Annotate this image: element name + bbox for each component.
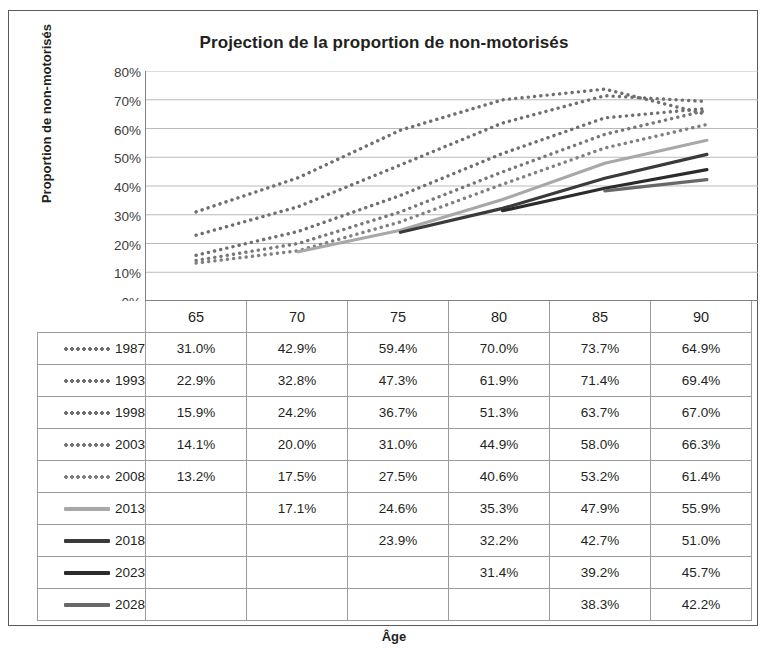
table-header-age-65: 65 — [146, 301, 247, 333]
legend-cell-1993[interactable]: 1993 — [38, 365, 146, 397]
table-cell — [449, 589, 550, 621]
table-header-age-90: 90 — [651, 301, 752, 333]
legend-swatch-solid-icon — [64, 539, 110, 543]
table-cell: 47.3% — [348, 365, 449, 397]
table-cell: 23.9% — [348, 525, 449, 557]
table-cell: 32.2% — [449, 525, 550, 557]
table-cell — [146, 493, 247, 525]
table-cell: 40.6% — [449, 461, 550, 493]
table-header-age-70: 70 — [247, 301, 348, 333]
legend-label-2028: 2028 — [115, 597, 145, 612]
legend-swatch-dotted-icon — [64, 475, 110, 479]
legend-cell-2028[interactable]: 2028 — [38, 589, 146, 621]
table-cell — [247, 525, 348, 557]
table-cell: 67.0% — [651, 397, 752, 429]
table-cell: 32.8% — [247, 365, 348, 397]
legend-swatch-solid-icon — [64, 507, 110, 511]
legend-swatch-dotted-icon — [64, 347, 110, 351]
table-cell: 51.0% — [651, 525, 752, 557]
legend-cell-2003[interactable]: 2003 — [38, 429, 146, 461]
y-axis-title: Proportion de non-motorisés — [39, 0, 54, 239]
legend-swatch-dotted-icon — [64, 443, 110, 447]
legend-cell-1998[interactable]: 1998 — [38, 397, 146, 429]
legend-swatch-dotted-icon — [64, 379, 110, 383]
table-cell: 27.5% — [348, 461, 449, 493]
table-cell: 69.4% — [651, 365, 752, 397]
table-cell: 58.0% — [550, 429, 651, 461]
table-cell: 70.0% — [449, 333, 550, 365]
legend-label-2023: 2023 — [115, 565, 145, 580]
table-row: 201317.1%24.6%35.3%47.9%55.9% — [38, 493, 752, 525]
table-cell: 47.9% — [550, 493, 651, 525]
table-row: 200813.2%17.5%27.5%40.6%53.2%61.4% — [38, 461, 752, 493]
table-header-age-80: 80 — [449, 301, 550, 333]
table-cell: 17.5% — [247, 461, 348, 493]
legend-label-2018: 2018 — [115, 533, 145, 548]
table-row: 201823.9%32.2%42.7%51.0% — [38, 525, 752, 557]
table-cell: 61.4% — [651, 461, 752, 493]
table-corner-cell — [38, 301, 146, 333]
table-cell: 38.3% — [550, 589, 651, 621]
y-axis-tick-40: 40% — [89, 181, 141, 195]
table-cell — [146, 525, 247, 557]
legend-label-2008: 2008 — [115, 469, 145, 484]
table-cell: 31.0% — [146, 333, 247, 365]
legend-label-1987: 1987 — [115, 341, 145, 356]
table-cell: 53.2% — [550, 461, 651, 493]
table-cell: 20.0% — [247, 429, 348, 461]
table-cell: 17.1% — [247, 493, 348, 525]
table-cell — [348, 589, 449, 621]
table-cell: 31.4% — [449, 557, 550, 589]
legend-label-2003: 2003 — [115, 437, 145, 452]
data-table: 657075808590198731.0%42.9%59.4%70.0%73.7… — [37, 301, 752, 621]
table-cell: 61.9% — [449, 365, 550, 397]
table-cell: 24.2% — [247, 397, 348, 429]
table-cell: 66.3% — [651, 429, 752, 461]
table-cell: 59.4% — [348, 333, 449, 365]
y-axis-tick-70: 70% — [89, 95, 141, 109]
table-cell: 42.2% — [651, 589, 752, 621]
table-cell — [247, 589, 348, 621]
legend-swatch-solid-icon — [64, 571, 110, 575]
table-cell — [247, 557, 348, 589]
y-axis-tick-80: 80% — [89, 66, 141, 80]
table-cell: 42.7% — [550, 525, 651, 557]
table-cell: 63.7% — [550, 397, 651, 429]
x-axis-title: Âge — [37, 629, 751, 644]
table-cell: 35.3% — [449, 493, 550, 525]
legend-cell-2023[interactable]: 2023 — [38, 557, 146, 589]
table-cell: 15.9% — [146, 397, 247, 429]
legend-label-2013: 2013 — [115, 501, 145, 516]
table-cell: 24.6% — [348, 493, 449, 525]
table-cell: 71.4% — [550, 365, 651, 397]
legend-label-1998: 1998 — [115, 405, 145, 420]
y-axis-tick-50: 50% — [89, 152, 141, 166]
legend-cell-2018[interactable]: 2018 — [38, 525, 146, 557]
y-axis-tick-labels: 80%70%60%50%40%30%20%10%0% — [89, 63, 141, 309]
table-cell: 51.3% — [449, 397, 550, 429]
legend-label-1993: 1993 — [115, 373, 145, 388]
table-row: 199815.9%24.2%36.7%51.3%63.7%67.0% — [38, 397, 752, 429]
table-header-row: 657075808590 — [38, 301, 752, 333]
table-cell — [146, 589, 247, 621]
table-cell: 31.0% — [348, 429, 449, 461]
table-row: 200314.1%20.0%31.0%44.9%58.0%66.3% — [38, 429, 752, 461]
table-cell: 45.7% — [651, 557, 752, 589]
table-cell: 64.9% — [651, 333, 752, 365]
legend-cell-1987[interactable]: 1987 — [38, 333, 146, 365]
table-cell: 36.7% — [348, 397, 449, 429]
table-cell: 55.9% — [651, 493, 752, 525]
chart-title: Projection de la proportion de non-motor… — [9, 33, 759, 53]
legend-swatch-dotted-icon — [64, 411, 110, 415]
table-header-age-75: 75 — [348, 301, 449, 333]
chart-frame: Projection de la proportion de non-motor… — [8, 10, 758, 626]
legend-swatch-solid-icon — [64, 603, 110, 607]
y-axis-tick-10: 10% — [89, 267, 141, 281]
table-cell: 22.9% — [146, 365, 247, 397]
legend-cell-2013[interactable]: 2013 — [38, 493, 146, 525]
series-plot — [145, 71, 758, 301]
legend-cell-2008[interactable]: 2008 — [38, 461, 146, 493]
table-cell: 73.7% — [550, 333, 651, 365]
table-cell — [146, 557, 247, 589]
table-row: 202331.4%39.2%45.7% — [38, 557, 752, 589]
